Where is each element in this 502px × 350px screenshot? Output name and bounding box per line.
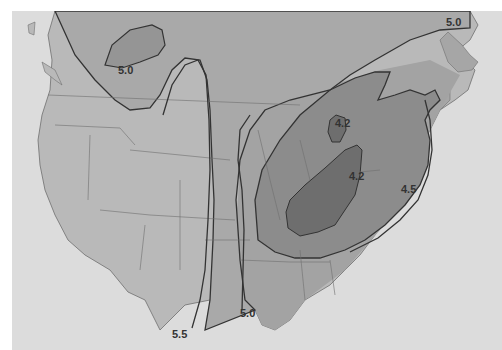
map-frame: 5.0 5.0 4.2 4.2 4.5 5.5 5.0 (12, 11, 502, 350)
label-nw-5-0: 5.0 (118, 64, 133, 76)
label-texas-5-5: 5.5 (172, 328, 187, 340)
label-ohio-4-2: 4.2 (349, 170, 364, 182)
label-atlantic-4-5: 4.5 (401, 183, 416, 195)
label-ne-5-0: 5.0 (446, 16, 461, 28)
label-ontario-4-2: 4.2 (335, 117, 350, 129)
label-gulf-5-0: 5.0 (240, 307, 255, 319)
island-small (28, 22, 35, 35)
isopleth-map: 5.0 5.0 4.2 4.2 4.5 5.5 5.0 (12, 11, 502, 350)
